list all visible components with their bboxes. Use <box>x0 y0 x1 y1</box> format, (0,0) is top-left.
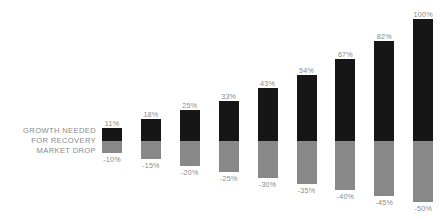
drop-bar-segment <box>297 141 317 184</box>
drop-value-label: -45% <box>376 198 394 207</box>
plot-area: 11%-10%18%-15%25%-20%33%-25%43%-30%54%-3… <box>0 0 445 219</box>
growth-bar-segment <box>102 128 122 141</box>
bar-group: 25%-20% <box>180 0 200 219</box>
drop-bar-segment <box>374 141 394 196</box>
growth-bar-segment <box>180 110 200 141</box>
bar-group: 100%-50% <box>413 0 433 219</box>
drop-bar-segment <box>141 141 161 159</box>
drop-value-label: -10% <box>103 155 121 164</box>
bar-group: 43%-30% <box>258 0 278 219</box>
drop-value-label: -30% <box>259 180 277 189</box>
growth-bar-segment <box>258 88 278 141</box>
bar-group: 18%-15% <box>141 0 161 219</box>
growth-value-label: 82% <box>377 32 392 41</box>
growth-value-label: 100% <box>414 10 433 19</box>
drop-value-label: -35% <box>298 186 316 195</box>
growth-value-label: 25% <box>182 101 197 110</box>
bar-group: 67%-40% <box>335 0 355 219</box>
growth-bar-segment <box>413 19 433 142</box>
growth-bar-segment <box>297 75 317 141</box>
growth-value-label: 43% <box>260 79 275 88</box>
drop-value-label: -25% <box>220 174 238 183</box>
bar-group: 11%-10% <box>102 0 122 219</box>
drop-bar-segment <box>102 141 122 153</box>
bar-group: 82%-45% <box>374 0 394 219</box>
growth-value-label: 11% <box>105 119 119 128</box>
growth-bar-segment <box>374 41 394 141</box>
drop-bar-segment <box>180 141 200 166</box>
chart-root: Growth Needed For Recovery Market Drop 1… <box>0 0 445 219</box>
growth-bar-segment <box>335 59 355 141</box>
drop-bar-segment <box>219 141 239 172</box>
drop-value-label: -50% <box>414 204 432 213</box>
bar-group: 54%-35% <box>297 0 317 219</box>
drop-bar-segment <box>258 141 278 178</box>
growth-value-label: 18% <box>143 110 158 119</box>
drop-bar-segment <box>413 141 433 202</box>
growth-value-label: 54% <box>299 66 314 75</box>
growth-bar-segment <box>219 101 239 141</box>
bar-group: 33%-25% <box>219 0 239 219</box>
drop-value-label: -15% <box>142 161 160 170</box>
drop-value-label: -20% <box>181 168 199 177</box>
drop-value-label: -40% <box>337 192 355 201</box>
growth-bar-segment <box>141 119 161 141</box>
drop-bar-segment <box>335 141 355 190</box>
growth-value-label: 67% <box>338 50 353 59</box>
growth-value-label: 33% <box>221 92 236 101</box>
